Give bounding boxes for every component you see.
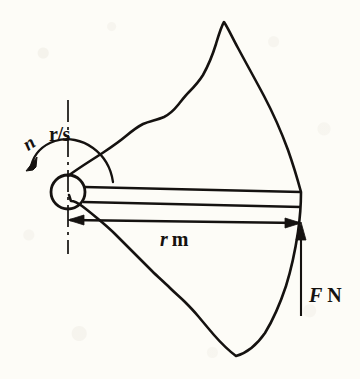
radius-unit: m [172,228,189,250]
force-label: FN [309,285,342,305]
force-symbol: F [309,284,327,306]
radius-symbol: r [160,228,172,250]
force-unit: N [327,284,341,306]
rotation-speed-label: r/s [49,124,70,144]
grinding-wheel-diagram: n r/s rm FN [0,0,360,379]
wheel-body-line-upper [84,187,301,192]
radius-dimension-arrow-left [68,215,84,225]
wheel-body-line-lower [83,202,301,207]
rotation-arrow-head [26,157,37,171]
radius-label: rm [160,229,188,249]
diagram-canvas [0,0,360,379]
